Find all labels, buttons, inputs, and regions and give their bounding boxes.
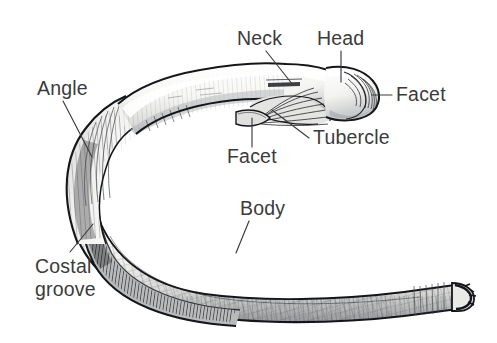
- rib-illustration: Neck Head Facet Tubercle Facet Angle Bod…: [0, 0, 497, 343]
- bone-part-body: [70, 200, 470, 330]
- label-head: Head: [317, 27, 364, 49]
- leader-body: [236, 221, 249, 253]
- label-costal-groove-line2: groove: [35, 278, 96, 300]
- label-facet-head: Facet: [396, 83, 446, 105]
- label-neck: Neck: [237, 27, 282, 49]
- label-facet-tubercle: Facet: [227, 145, 277, 167]
- label-tubercle: Tubercle: [313, 126, 390, 148]
- rib-anatomy-figure: Neck Head Facet Tubercle Facet Angle Bod…: [0, 0, 497, 343]
- label-costal-groove-line1: Costal: [35, 255, 91, 277]
- label-angle: Angle: [37, 77, 88, 99]
- bone-part-head: [324, 67, 379, 123]
- label-body: Body: [240, 197, 285, 219]
